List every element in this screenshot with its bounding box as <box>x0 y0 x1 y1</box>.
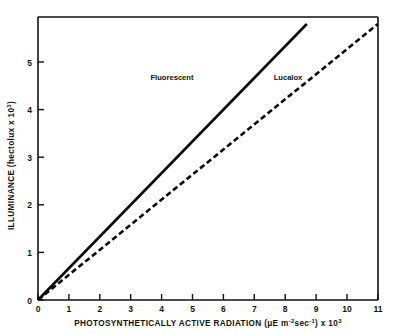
x-tick-label-6: 6 <box>221 304 226 314</box>
y-tick-label-3: 3 <box>27 153 32 163</box>
y-tick-label-4: 4 <box>27 105 32 115</box>
x-tick-label-11: 11 <box>373 304 382 314</box>
chart-figure: 0 1 2 3 4 5 6 7 8 9 10 11 0 1 2 3 4 5 <box>0 0 400 335</box>
x-tick-label-5: 5 <box>190 304 195 314</box>
y-axis-title-close: ) <box>7 101 16 104</box>
x-tick-label-1: 1 <box>67 304 72 314</box>
y-tick-label-2: 2 <box>27 200 32 210</box>
x-tick-label-0: 0 <box>36 304 41 314</box>
x-axis-title-main: PHOTOSYNTHETICALLY ACTIVE RADIATION (μE … <box>74 319 288 328</box>
y-axis-title-main: ILLUMINANCE (hectolux x 10 <box>7 108 16 230</box>
x-axis-title-tail: ) x 10 <box>315 319 338 328</box>
y-axis-title: ILLUMINANCE (hectolux x 103) <box>6 101 16 230</box>
x-tick-label-7: 7 <box>252 304 257 314</box>
y-tick-label-5: 5 <box>27 58 32 68</box>
illuminance-vs-par-line-chart: 0 1 2 3 4 5 6 7 8 9 10 11 0 1 2 3 4 5 <box>0 0 400 335</box>
x-axis-ticks <box>38 294 378 300</box>
x-axis-title-mid: sec <box>295 319 310 328</box>
y-tick-label-0: 0 <box>27 296 32 306</box>
x-axis-tick-labels: 0 1 2 3 4 5 6 7 8 9 10 11 <box>36 304 383 314</box>
x-tick-label-8: 8 <box>283 304 288 314</box>
x-tick-label-2: 2 <box>97 304 102 314</box>
x-tick-label-3: 3 <box>128 304 133 314</box>
y-axis-ticks <box>38 62 44 300</box>
series-label-lucalox: Lucalox <box>274 73 303 82</box>
series-line-lucalox <box>38 24 378 300</box>
y-axis-tick-labels: 0 1 2 3 4 5 <box>27 58 32 306</box>
x-axis-title-exponent-3: 3 <box>338 318 342 324</box>
series-annotations: Fluorescent Lucalox <box>150 73 303 82</box>
x-tick-label-4: 4 <box>159 304 164 314</box>
svg-text:ILLUMINANCE (hectolux x 103): ILLUMINANCE (hectolux x 103) <box>6 101 16 230</box>
svg-text:PHOTOSYNTHETICALLY ACTIVE: PHOTOSYNTHETICALLY ACTIVE RADIATION (μE … <box>74 318 342 328</box>
x-tick-label-10: 10 <box>342 304 352 314</box>
x-axis-title: PHOTOSYNTHETICALLY ACTIVE RADIATION (μE … <box>74 318 342 328</box>
y-tick-label-1: 1 <box>27 248 32 258</box>
x-tick-label-9: 9 <box>314 304 319 314</box>
series-line-fluorescent <box>38 24 307 300</box>
data-series-group <box>38 24 378 300</box>
series-label-fluorescent: Fluorescent <box>150 73 194 82</box>
